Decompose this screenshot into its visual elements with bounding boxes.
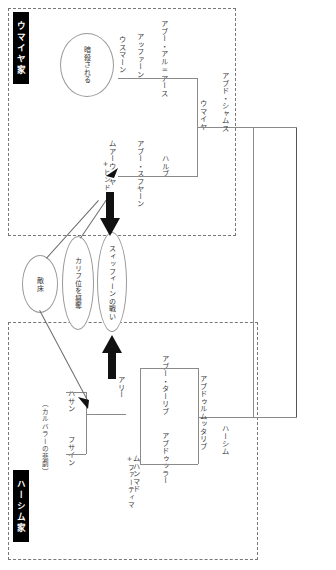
event-karbala-note: （カルバラーの悲劇） (40, 400, 47, 475)
link-abutalib (140, 368, 198, 369)
person-fatima: +ファーティマ (126, 455, 133, 509)
family-tag-hashim: ハーシム家 (13, 470, 29, 542)
link-abdullah (140, 464, 198, 465)
person-abd-shams: アブド・シャムス (222, 72, 229, 132)
arrow-to-muawiya-icon (104, 166, 120, 182)
person-muhammad: ムハンマド (133, 455, 140, 493)
diagram-canvas: ウマイヤ家 暗殺される ウスマーン アッファーン アブー・アル=アース ムアーウ… (0, 0, 336, 570)
link-spine-top (253, 127, 297, 128)
person-abu-al-as: アブー・アル=アース (161, 20, 168, 97)
event-label-siffin: スィッフィーンの戦い (107, 245, 117, 320)
person-abu-sufyan: アブー・スフヤーン (137, 140, 144, 208)
link-ali-children (86, 414, 126, 415)
family-tag-umayyad: ウマイヤ家 (13, 12, 29, 84)
event-label-hostility: 敵床 (35, 277, 45, 292)
link-spine-bottom (253, 417, 297, 418)
event-oval-siffin: スィッフィーンの戦い (97, 232, 127, 332)
link-region-spine (296, 127, 297, 417)
arrow-to-husayn-icon (76, 395, 92, 411)
bold-arrow-siffin-up-icon (100, 192, 120, 236)
event-label-usurp: カリフ位を簒奪 (73, 257, 83, 310)
event-oval-hostility: 敵床 (22, 255, 58, 313)
link-abdullah-vertical (140, 368, 141, 464)
person-uthman: ウスマーン (119, 36, 126, 74)
person-affan: アッファーン (137, 33, 144, 78)
link-muawiya-branch (118, 176, 198, 177)
person-umayya: ウマイヤ (200, 100, 207, 130)
person-abd-al-muttalib: アブドゥルムッタリブ (200, 375, 207, 450)
person-abu-talib: アブー・ターリブ (162, 355, 169, 415)
person-abdullah: アブドゥッラー (162, 432, 169, 485)
person-ali: アリー (118, 376, 125, 399)
link-uthman-branch (118, 78, 198, 79)
event-label-assassinated: 暗殺される (82, 46, 92, 84)
link-husayn (66, 454, 86, 455)
person-harb: ハルブ (162, 155, 169, 178)
person-hasan: ハサン (68, 390, 75, 413)
event-oval-assassinated: 暗殺される (60, 33, 114, 97)
person-hashim: ハーシム (222, 425, 229, 455)
event-oval-usurp: カリフ位を簒奪 (62, 236, 94, 330)
person-husayn: フサイン (68, 436, 75, 466)
link-abdmuttalib-vertical (198, 368, 199, 464)
bold-arrow-siffin-down-icon (102, 335, 122, 379)
